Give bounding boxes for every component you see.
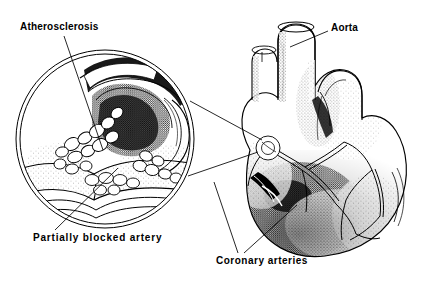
label-partially-blocked-artery: Partially blocked artery: [33, 233, 162, 243]
illustration-page: Atherosclerosis Partially blocked artery…: [0, 0, 425, 282]
label-atherosclerosis: Atherosclerosis: [20, 22, 99, 32]
label-coronary-arteries: Coronary arteries: [216, 256, 308, 266]
coronary-origin-node: [256, 136, 280, 160]
label-aorta: Aorta: [331, 23, 358, 33]
